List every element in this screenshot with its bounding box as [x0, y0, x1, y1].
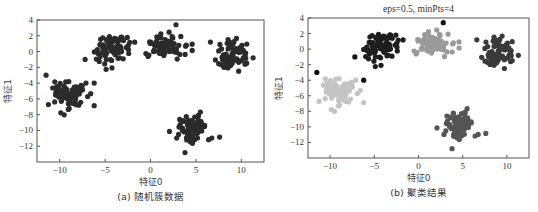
x-tick-label: 10	[237, 165, 247, 175]
y-tick-label: −12	[290, 137, 304, 147]
y-tick-label: −2	[23, 62, 33, 72]
scatter-plot-b: eps=0.5, minPts=4 −10−50510 420−2−4−6−8−…	[268, 0, 538, 212]
y-tick-label: 2	[29, 31, 34, 41]
y-axis-label: 特征1	[2, 79, 13, 103]
y-tick-label: 4	[300, 13, 305, 23]
chart-panel-a: −10−50510 420−2−4−6−8−10−12 特征0 特征1 (a) …	[0, 0, 270, 212]
y-axis-label: 特征1	[273, 76, 284, 100]
x-tick-label: −5	[100, 165, 110, 175]
series-cluster-3	[412, 27, 462, 59]
series-cluster-4	[213, 36, 250, 74]
y-tick-label: −8	[294, 106, 304, 116]
y-tick-label: −6	[294, 91, 304, 101]
series-cluster-5	[434, 106, 488, 142]
figure-caption: (b) 聚类结果	[390, 187, 446, 198]
y-tick-label: −10	[19, 125, 34, 135]
x-tick-label: 5	[460, 161, 465, 171]
x-tick-label: 5	[194, 165, 199, 175]
plot-points	[43, 22, 255, 155]
y-tick-label: 0	[300, 44, 305, 54]
y-tick-label: 2	[300, 29, 305, 39]
y-tick-label: −6	[23, 94, 33, 104]
series-cluster-2	[361, 32, 406, 69]
x-tick-label: 10	[502, 161, 512, 171]
series-cluster-4	[479, 34, 515, 72]
x-tick-label: −10	[53, 165, 68, 175]
y-tick-label: 0	[29, 47, 34, 57]
figure-caption: (a) 随机簇数据	[117, 191, 183, 202]
x-axis-label: 特征0	[407, 172, 431, 183]
y-tick-label: −4	[23, 78, 33, 88]
scatter-plot-a: −10−50510 420−2−4−6−8−10−12 特征0 特征1 (a) …	[0, 0, 270, 212]
x-tick-label: −10	[323, 161, 338, 171]
x-tick-label: 0	[416, 161, 421, 171]
plot-points	[314, 20, 521, 151]
chart-title: eps=0.5, minPts=4	[383, 4, 454, 14]
series-cluster-2	[92, 34, 138, 72]
x-tick-label: −5	[370, 161, 380, 171]
x-tick-label: 0	[148, 165, 153, 175]
x-ticks: −10−50510	[53, 159, 247, 175]
y-tick-label: −10	[290, 122, 305, 132]
series-cluster-3	[143, 30, 195, 62]
series-cluster-1	[46, 79, 97, 117]
series-cluster-1	[317, 76, 367, 114]
series-cluster-5	[167, 109, 222, 145]
x-ticks: −10−50510	[323, 155, 512, 171]
y-tick-label: −8	[23, 110, 33, 120]
y-tick-label: −4	[294, 75, 304, 85]
y-tick-label: −2	[294, 60, 304, 70]
chart-panel-b: eps=0.5, minPts=4 −10−50510 420−2−4−6−8−…	[268, 0, 538, 212]
y-tick-label: −12	[19, 141, 33, 151]
y-tick-label: 4	[29, 15, 34, 25]
x-axis-label: 特征0	[139, 176, 163, 187]
